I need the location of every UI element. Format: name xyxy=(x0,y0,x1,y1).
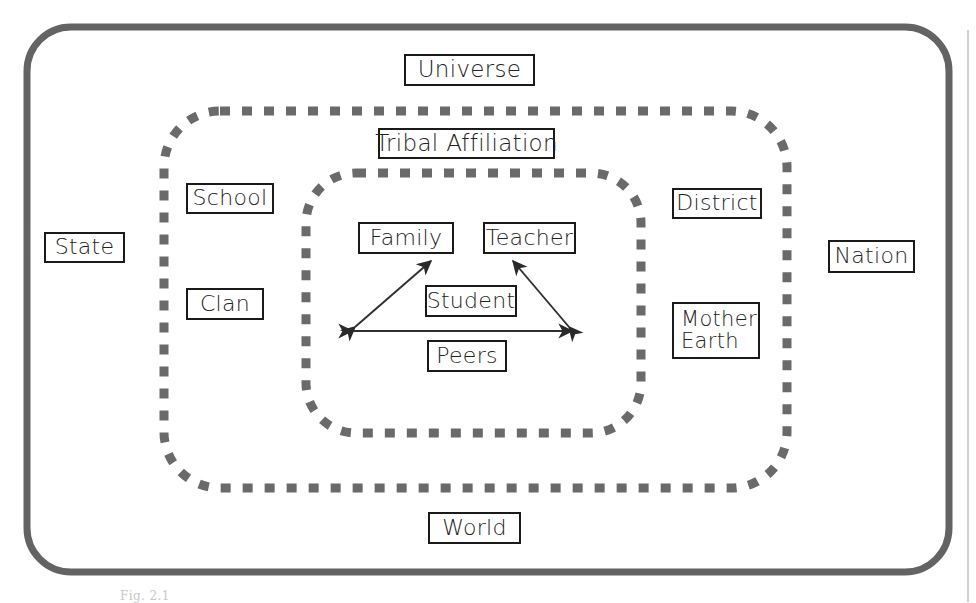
label-text-clan: Clan xyxy=(200,293,250,315)
figure-caption: Fig. 2.1 xyxy=(120,589,170,603)
label-text-universe: Universe xyxy=(418,58,522,81)
label-box-district[interactable]: District xyxy=(672,188,762,219)
label-text-family: Family xyxy=(370,227,443,249)
label-text-district: District xyxy=(676,192,757,214)
label-box-school[interactable]: School xyxy=(186,183,274,214)
label-text-student: Student xyxy=(427,290,516,312)
label-box-family[interactable]: Family xyxy=(358,222,454,254)
label-box-teacher[interactable]: Teacher xyxy=(483,222,576,254)
label-text-tribal-affiliation: Tribal Affiliation xyxy=(375,132,558,155)
label-box-nation[interactable]: Nation xyxy=(828,240,915,273)
label-box-state[interactable]: State xyxy=(44,232,125,263)
arrow-rightvertex-to-teacher xyxy=(513,261,569,327)
label-text-mother-earth-line2: Earth xyxy=(681,331,739,352)
label-text-teacher: Teacher xyxy=(486,227,573,249)
label-box-clan[interactable]: Clan xyxy=(186,288,264,320)
label-box-tribal-affiliation[interactable]: Tribal Affiliation xyxy=(378,128,555,159)
label-box-peers[interactable]: Peers xyxy=(427,340,507,372)
label-box-world[interactable]: World xyxy=(428,512,521,544)
label-text-school: School xyxy=(193,187,268,209)
arrow-leftvertex-to-family xyxy=(355,261,431,327)
label-box-universe[interactable]: Universe xyxy=(404,54,535,86)
label-text-state: State xyxy=(55,236,115,258)
label-box-student[interactable]: Student xyxy=(425,285,517,317)
label-box-mother-earth[interactable]: Mother Earth xyxy=(672,302,760,359)
label-text-peers: Peers xyxy=(436,345,498,367)
label-text-world: World xyxy=(442,517,507,539)
label-text-mother-earth-line1: Mother xyxy=(681,309,757,330)
label-text-nation: Nation xyxy=(835,245,909,267)
